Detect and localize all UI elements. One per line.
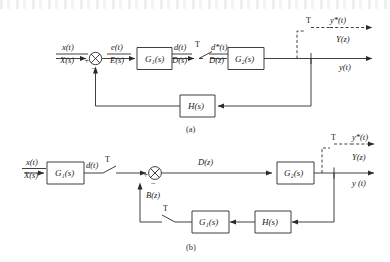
block-g1-label-a: G₁(s): [145, 54, 164, 64]
dashed-sampler-branch-a: [297, 31, 305, 59]
dashed-sampler-branch-b: [322, 148, 330, 173]
sign-minus-b: −: [151, 179, 156, 188]
label-dt-b: d(t): [86, 160, 98, 170]
diagram-canvas: x(t) X(s) + − e(t) E(s) G₁(s) d(t) D(s): [0, 0, 390, 262]
block-g1-feedback-label-b: G₁(s): [199, 217, 218, 227]
sampler-label-T-b: T: [105, 155, 110, 164]
label-yt-a: y(t): [338, 62, 351, 72]
feedback-arrowhead-b: [138, 183, 143, 190]
label-yt-b: y (t): [351, 178, 366, 188]
block-h-label-a: H(s): [187, 101, 204, 111]
feedback-sampler-arm-b: [162, 215, 175, 222]
label-input-Xs-a: X(s): [59, 55, 74, 65]
block-g2-label-b: G₂(s): [284, 168, 303, 178]
sign-plus-b: +: [144, 170, 149, 179]
label-Dz-a: D(z): [208, 55, 224, 65]
label-Dz-b: D(z): [197, 157, 213, 167]
label-Bz-b: B(z): [146, 190, 160, 200]
label-dstar-a: d*(t): [211, 42, 228, 52]
caption-a: (a): [186, 124, 196, 134]
label-ystar-b: y*(t): [351, 132, 368, 142]
diagram-a: x(t) X(s) + − e(t) E(s) G₁(s) d(t) D(s): [56, 15, 372, 134]
label-ystar-a: y*(t): [329, 15, 346, 25]
label-error-Es-a: E(s): [109, 55, 124, 65]
label-Yz-b: Y(z): [352, 152, 366, 162]
block-g1-forward-label-b: G₁(s): [55, 168, 74, 178]
diagram-b: x(t) X(s) G₁(s) d(t) T + − D(z) G₂(s): [22, 132, 374, 252]
label-input-xt-b: x(t): [25, 157, 38, 167]
label-input-Xs-b: X(s): [23, 170, 38, 180]
output-sampler-label-T-b: T: [331, 133, 336, 142]
label-Yz-a: Y(z): [336, 34, 350, 44]
sampler-switch-arm-b: [103, 166, 116, 173]
label-error-et-a: e(t): [111, 42, 123, 52]
sign-plus-a: +: [85, 56, 90, 65]
feedback-sampler-label-T-b: T: [163, 204, 168, 213]
block-g2-label-a: G₂(s): [235, 54, 254, 64]
figure-block-diagrams: x(t) X(s) + − e(t) E(s) G₁(s) d(t) D(s): [0, 0, 390, 262]
label-Ds-a: D(s): [171, 55, 187, 65]
feedback-return-a: [96, 70, 181, 106]
label-input-xt-a: x(t): [61, 42, 74, 52]
output-sampler-label-T-a: T: [306, 16, 311, 25]
label-dt-a: d(t): [174, 42, 186, 52]
block-h-label-b: H(s): [261, 217, 278, 227]
sampler-label-T-a: T: [195, 40, 200, 49]
caption-b: (b): [186, 242, 196, 252]
